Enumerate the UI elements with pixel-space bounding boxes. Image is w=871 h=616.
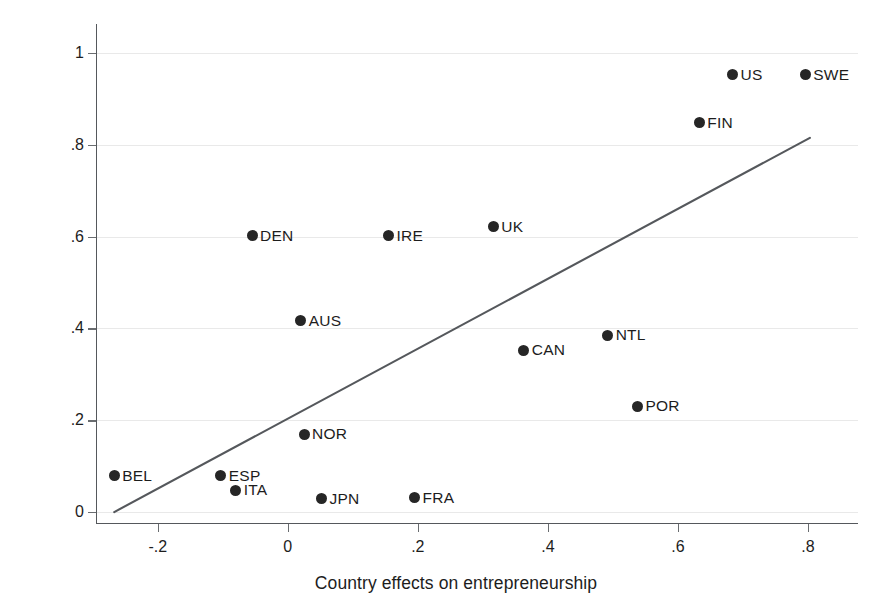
y-tick-label: .2 bbox=[71, 411, 84, 429]
data-point-label: UK bbox=[501, 218, 523, 236]
x-tick bbox=[548, 524, 549, 532]
y-tick bbox=[88, 237, 96, 238]
x-tick bbox=[158, 524, 159, 532]
data-point-label: NTL bbox=[616, 326, 646, 344]
y-tick bbox=[88, 328, 96, 329]
x-tick-label: -.2 bbox=[148, 538, 167, 556]
x-tick bbox=[808, 524, 809, 532]
data-point-label: FRA bbox=[423, 489, 455, 507]
y-axis-line bbox=[96, 24, 97, 524]
data-point-marker[interactable] bbox=[299, 429, 310, 440]
x-tick-label: .2 bbox=[411, 538, 424, 556]
y-tick-label: .8 bbox=[71, 136, 84, 154]
y-tick bbox=[88, 512, 96, 513]
x-axis-line bbox=[96, 523, 858, 524]
data-point-marker[interactable] bbox=[602, 330, 613, 341]
x-axis-title: Country effects on entrepreneurship bbox=[96, 573, 816, 594]
data-point-label: DEN bbox=[260, 227, 293, 245]
data-point-label: AUS bbox=[309, 312, 341, 330]
y-tick bbox=[88, 420, 96, 421]
x-tick-label: .8 bbox=[801, 538, 814, 556]
scatter-plot-figure: Annual average TFP growth for 1993-2013 … bbox=[0, 0, 871, 616]
data-point-label: ITA bbox=[244, 481, 268, 499]
data-point-label: BEL bbox=[122, 467, 152, 485]
data-point-label: JPN bbox=[330, 490, 360, 508]
data-point-marker[interactable] bbox=[694, 117, 705, 128]
y-tick-label: .4 bbox=[71, 319, 84, 337]
y-axis-title: Annual average TFP growth for 1993-2013 bbox=[0, 0, 40, 616]
y-tick bbox=[88, 53, 96, 54]
y-tick-label: 0 bbox=[75, 503, 84, 521]
x-tick-label: 0 bbox=[283, 538, 292, 556]
data-point-marker[interactable] bbox=[247, 230, 258, 241]
regression-line bbox=[96, 24, 858, 524]
x-tick-label: .4 bbox=[541, 538, 554, 556]
data-point-label: CAN bbox=[532, 341, 565, 359]
x-tick bbox=[418, 524, 419, 532]
y-tick-label: 1 bbox=[75, 44, 84, 62]
data-point-marker[interactable] bbox=[230, 485, 241, 496]
plot-area: 0.2.4.6.81 -.20.2.4.6.8 BELESPITADENAUSN… bbox=[96, 24, 858, 524]
data-point-label: US bbox=[741, 66, 763, 84]
data-point-marker[interactable] bbox=[109, 470, 120, 481]
data-point-label: NOR bbox=[312, 425, 347, 443]
data-point-label: FIN bbox=[707, 114, 733, 132]
data-point-label: IRE bbox=[397, 227, 423, 245]
x-tick bbox=[678, 524, 679, 532]
data-point-label: POR bbox=[646, 397, 680, 415]
x-tick bbox=[288, 524, 289, 532]
data-point-marker[interactable] bbox=[632, 401, 643, 412]
y-tick-label: .6 bbox=[71, 228, 84, 246]
x-tick-label: .6 bbox=[671, 538, 684, 556]
regression-line-segment bbox=[114, 138, 810, 512]
y-tick bbox=[88, 145, 96, 146]
data-point-label: SWE bbox=[813, 66, 849, 84]
